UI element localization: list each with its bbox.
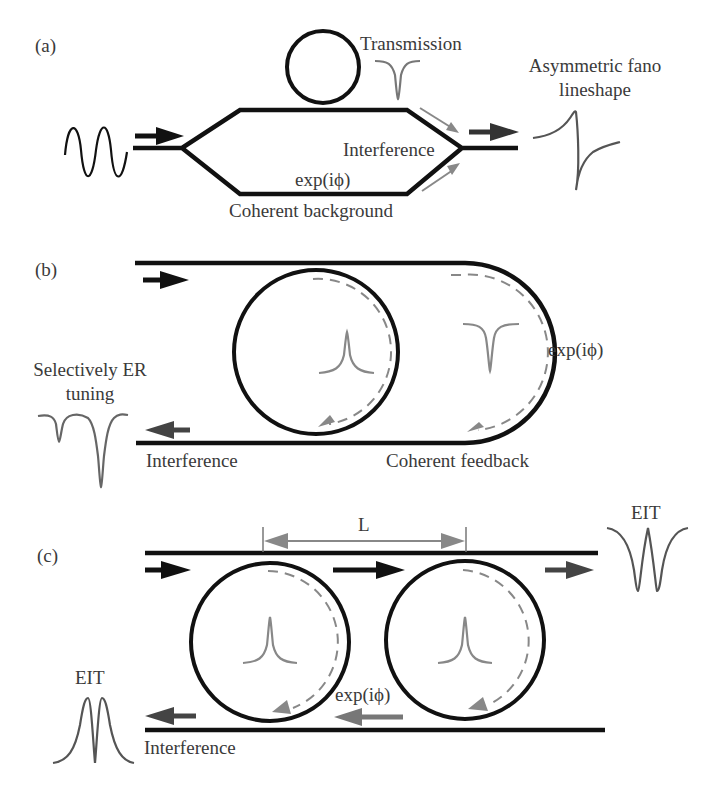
interference-label: Interference (343, 140, 435, 159)
ring-circulation-arrowhead (318, 415, 335, 427)
panel-c (53, 527, 688, 763)
output-arrow (145, 421, 190, 439)
fano-label-line1: Asymmetric fano (520, 56, 670, 75)
phase-label: exp(iϕ) (335, 685, 390, 704)
eit-top-label: EIT (631, 503, 661, 522)
panel-a-label: (a) (35, 36, 56, 55)
ring-resonator (234, 270, 398, 434)
feedback-dip-curve (463, 324, 519, 371)
fano-label-line2: lineshape (520, 80, 670, 99)
phase-label: exp(iϕ) (295, 170, 350, 189)
resonance-peak-curve (319, 332, 374, 373)
output-arrow (469, 123, 519, 141)
panel-b-label: (b) (35, 260, 57, 279)
mid-arrow (333, 561, 405, 579)
phase-label: exp(iϕ) (548, 340, 603, 359)
ring-resonator-1 (191, 563, 349, 721)
input-arrow (135, 127, 184, 145)
feedback-circulation-arrowhead (467, 422, 484, 432)
feedback-arrow (334, 708, 403, 726)
interference-label: Interference (146, 451, 238, 470)
ring1-circulation-arrowhead (272, 700, 291, 714)
input-arrow (145, 561, 191, 579)
ring2-circulation-dashed (463, 570, 529, 705)
ring1-resonance-peak (243, 617, 297, 663)
transmission-dip-curve (375, 61, 420, 99)
fano-lineshape-curve (533, 111, 620, 190)
eit-bottom-label: EIT (75, 668, 105, 687)
feedback-label: Coherent feedback (386, 451, 529, 470)
distance-label: L (358, 515, 370, 534)
panel-c-label: (c) (37, 546, 58, 565)
transmission-label: Transmission (360, 34, 462, 53)
eit-reflection-curve (53, 698, 134, 763)
input-arrow (143, 271, 189, 289)
ring-resonator (287, 31, 359, 103)
er-label-line1: Selectively ER (20, 360, 160, 379)
er-label-line2: tuning (20, 384, 160, 403)
ring-resonator-2 (386, 561, 544, 719)
background-label: Coherent background (229, 201, 393, 220)
ring1-circulation-dashed (268, 571, 338, 708)
reflection-arrow (145, 707, 196, 725)
er-tuning-curve (38, 414, 128, 487)
interference-label: Interference (144, 738, 236, 757)
input-sine-wave (65, 128, 127, 177)
eit-transmission-curve (607, 528, 688, 591)
ring2-circulation-arrowhead (468, 697, 488, 711)
ring2-resonance-peak (438, 617, 492, 663)
output-arrow (545, 561, 594, 579)
